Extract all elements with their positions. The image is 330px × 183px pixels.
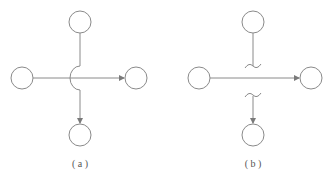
node-a-bottom	[69, 124, 91, 146]
node-a-top	[69, 11, 91, 33]
caption-b: ( b )	[233, 158, 273, 169]
node-b-right	[300, 67, 322, 89]
node-a-right	[125, 67, 147, 89]
panel-b	[188, 11, 322, 146]
caption-a: ( a )	[60, 158, 100, 169]
node-b-top	[242, 11, 264, 33]
node-b-bottom	[242, 124, 264, 146]
node-b-left	[188, 67, 210, 89]
panel-a	[11, 11, 147, 146]
node-a-left	[11, 67, 33, 89]
crossing-diagrams	[0, 0, 330, 183]
